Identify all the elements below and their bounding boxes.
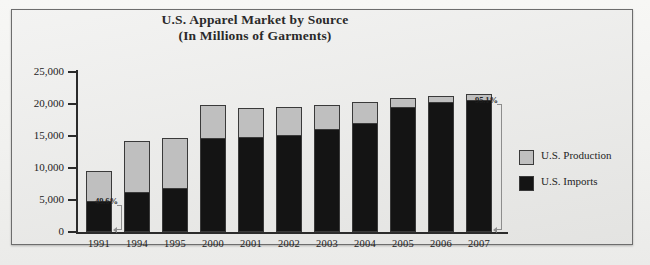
y-axis-label: 10,000 <box>6 161 64 173</box>
annotation-label-2007: 95.1% <box>475 95 498 105</box>
bar-2002 <box>276 107 302 232</box>
bar-segment-imports <box>276 136 302 232</box>
bar-segment-production <box>352 102 378 124</box>
x-axis-label-2005: 2005 <box>386 238 420 249</box>
bar-segment-imports <box>86 202 112 232</box>
bar-segment-imports <box>428 103 454 232</box>
x-axis-line <box>76 232 508 234</box>
bar-segment-production <box>314 105 340 129</box>
x-axis-label-2006: 2006 <box>424 238 458 249</box>
y-axis-line <box>76 70 78 234</box>
bar-2005 <box>390 98 416 232</box>
bar-segment-imports <box>352 124 378 232</box>
bar-segment-imports <box>466 101 492 232</box>
y-axis-tick <box>68 167 77 169</box>
legend-swatch-production-icon <box>519 150 534 165</box>
bar-segment-production <box>390 98 416 108</box>
chart-screenshot: U.S. Apparel Market by Source (In Millio… <box>0 0 650 265</box>
y-axis-label: 15,000 <box>6 129 64 141</box>
bar-segment-imports <box>124 193 150 232</box>
bar-segment-production <box>238 108 264 137</box>
bar-segment-imports <box>238 138 264 232</box>
bar-segment-production <box>276 107 302 136</box>
y-axis-tick <box>68 103 77 105</box>
bar-segment-imports <box>314 130 340 232</box>
bar-segment-production <box>124 141 150 193</box>
x-axis-label-1994: 1994 <box>120 238 154 249</box>
annotation-arrow-2007 <box>493 227 497 233</box>
x-axis-label-1991: 1991 <box>82 238 116 249</box>
legend-label-imports: U.S. Imports <box>541 175 598 187</box>
bar-1995 <box>162 138 188 232</box>
y-axis-label: 25,000 <box>6 65 64 77</box>
annotation-bracket-1991 <box>117 205 122 230</box>
x-axis-label-2002: 2002 <box>272 238 306 249</box>
y-axis-tick <box>68 231 77 233</box>
bar-2003 <box>314 105 340 232</box>
annotation-arrow-1991 <box>113 227 117 233</box>
y-axis-label: 0 <box>6 225 64 237</box>
bar-segment-production <box>200 105 226 138</box>
bar-2006 <box>428 96 454 232</box>
y-axis-tick <box>68 135 77 137</box>
x-axis-label-2007: 2007 <box>462 238 496 249</box>
x-axis-label-2000: 2000 <box>196 238 230 249</box>
bar-segment-imports <box>162 189 188 232</box>
x-axis-label-2001: 2001 <box>234 238 268 249</box>
bar-2004 <box>352 102 378 232</box>
bar-segment-imports <box>390 108 416 232</box>
bar-segment-imports <box>200 139 226 232</box>
legend-label-production: U.S. Production <box>541 149 612 161</box>
y-axis-tick <box>68 71 77 73</box>
bar-2001 <box>238 108 264 232</box>
bar-2000 <box>200 105 226 232</box>
bar-2007 <box>466 94 492 232</box>
y-axis-tick <box>68 199 77 201</box>
annotation-label-1991: 49.6% <box>95 196 118 206</box>
x-axis-label-2003: 2003 <box>310 238 344 249</box>
bar-segment-production <box>162 138 188 189</box>
y-axis-label: 20,000 <box>6 97 64 109</box>
annotation-bracket-2007 <box>497 104 502 230</box>
bar-1994 <box>124 141 150 232</box>
x-axis-label-1995: 1995 <box>158 238 192 249</box>
legend-swatch-imports-icon <box>519 176 534 191</box>
y-axis-label: 5,000 <box>6 193 64 205</box>
plot-area: 25,00020,00015,00010,0005,0000 199119941… <box>0 0 650 265</box>
x-axis-label-2004: 2004 <box>348 238 382 249</box>
